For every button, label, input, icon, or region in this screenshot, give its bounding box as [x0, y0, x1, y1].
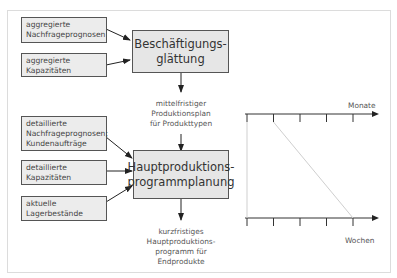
box-text-line: detaillierte	[26, 119, 102, 129]
box-text-line: Nachfrageprognosen	[26, 30, 102, 40]
box-text-line: Kapazitäten	[26, 66, 102, 76]
input-box-aktuelle-lagerbestaende: aktuelle Lagerbestände	[21, 196, 107, 221]
process-box-beschaeftigungsglaettung: Beschäftigungs- glättung	[132, 30, 229, 73]
process-text-line: Beschäftigungs-	[134, 37, 226, 52]
box-text-line: Kundenaufträge	[26, 139, 102, 149]
input-box-detaillierte-kapazitaeten: detaillierte Kapazitäten	[21, 160, 107, 185]
arrowhead-monate	[372, 111, 379, 117]
arrow-detail-nachfrage-to-hpp	[106, 137, 132, 158]
label-text-line: für Produkttypen	[136, 119, 226, 129]
box-text-line: Lagerbestände	[26, 209, 102, 219]
input-box-detaillierte-nachfrage: detaillierte Nachfrageprognosen; Kundena…	[21, 116, 107, 151]
label-text-line: mittelfristiger	[136, 99, 226, 109]
process-box-hauptproduktionsprogrammplanung: Hauptproduktions- programmplanung	[133, 150, 229, 199]
label-text-line: programm für	[136, 247, 226, 257]
diagonal-mapping-line	[274, 122, 354, 218]
label-text-line: Hauptproduktions-	[136, 237, 226, 247]
box-text-line: Nachfrageprognosen;	[26, 129, 102, 139]
box-text-line: aggregierte	[26, 56, 102, 66]
box-text-line: Kapazitäten	[26, 173, 102, 183]
input-box-aggregierte-nachfrage: aggregierte Nachfrageprognosen	[21, 17, 107, 43]
arrowhead-wochen	[372, 215, 379, 221]
timeline-diagram	[245, 111, 379, 226]
axis-label-monate: Monate	[348, 101, 376, 110]
input-box-aggregierte-kapazitaeten: aggregierte Kapazitäten	[21, 53, 107, 77]
label-mittelfristiger-produktionsplan: mittelfristiger Produktionsplan für Prod…	[136, 99, 226, 129]
arrow-kapazitaeten-to-glaettung	[106, 60, 130, 65]
process-text-line: Hauptproduktions-	[127, 160, 234, 175]
axis-label-wochen: Wochen	[345, 236, 374, 245]
box-text-line: aktuelle	[26, 199, 102, 209]
process-text-line: programmplanung	[127, 175, 234, 190]
label-text-line: kurzfristiges	[136, 227, 226, 237]
box-text-line: detaillierte	[26, 163, 102, 173]
label-text-line: Produktionsplan	[136, 109, 226, 119]
label-kurzfristiges-hauptproduktionsprogramm: kurzfristiges Hauptproduktions- programm…	[136, 227, 226, 267]
arrow-nachfrage-to-glaettung	[106, 29, 130, 40]
process-text-line: glättung	[134, 52, 226, 67]
box-text-line: aggregierte	[26, 20, 102, 30]
label-text-line: Endprodukte	[136, 257, 226, 267]
